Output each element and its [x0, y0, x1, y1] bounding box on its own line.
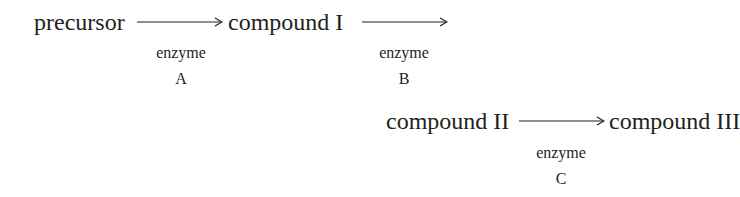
arrow-a-icon: [137, 15, 223, 29]
arrow-c-icon: [519, 114, 605, 128]
enzyme-b-letter: B: [368, 71, 440, 87]
arrow-b-icon: [362, 15, 448, 29]
enzyme-a-letter: A: [145, 71, 217, 87]
enzyme-c-word: enzyme: [525, 145, 597, 161]
enzyme-c-letter: C: [525, 171, 597, 187]
node-compound-1: compound I: [228, 10, 343, 34]
enzyme-b-word: enzyme: [368, 45, 440, 61]
node-compound-2: compound II: [386, 109, 509, 133]
enzyme-a-word: enzyme: [145, 45, 217, 61]
node-compound-3: compound III: [609, 109, 740, 133]
node-precursor: precursor: [34, 10, 125, 34]
